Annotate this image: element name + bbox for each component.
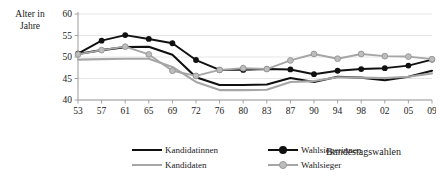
data-point-marker [382,53,388,59]
data-point-marker [122,44,128,50]
x-axis-tick-label: 69 [168,106,178,116]
y-axis-title-line-1: Alter in [4,8,56,20]
y-axis-tick-label: 60 [63,9,73,19]
legend-item-wahlsieger: Wahlsieger [268,157,361,172]
data-point-marker [311,71,317,77]
data-point-marker [406,63,412,69]
x-axis-tick-label: 53 [73,106,83,116]
data-point-marker [406,54,412,60]
chart-legend: Kandidatinnen Kandidaten Wahlsiegerinnen [132,142,328,172]
data-point-marker [429,56,435,62]
data-point-marker [288,58,294,64]
data-point-marker [240,65,246,71]
data-point-marker [193,73,199,79]
data-point-marker [146,52,152,58]
y-axis-tick-label: 50 [63,52,73,62]
data-point-marker [358,51,364,57]
data-point-marker [382,65,388,71]
x-axis-tick-label: 05 [404,106,414,116]
series-wahlsieger [75,44,435,79]
legend-item-wahlsiegerinnen: Wahlsiegerinnen [268,142,361,157]
data-point-marker [99,47,105,53]
data-point-marker [99,38,105,44]
data-point-marker [264,66,270,72]
legend-label: Kandidaten [165,160,206,170]
series-kandidatinnen [78,47,432,85]
x-axis-tick-label: 98 [356,106,366,116]
x-axis-tick-label: 83 [262,106,272,116]
data-point-marker [311,51,317,57]
y-axis-tick-label: 40 [63,95,73,105]
data-point-marker [122,32,128,38]
y-axis-title: Alter in Jahre [4,8,56,32]
x-axis-tick-label: 57 [97,106,107,116]
legend-label: Wahlsiegerinnen [301,145,361,155]
data-point-marker [193,57,199,63]
x-axis-tick-label: 90 [309,106,319,116]
data-point-marker [217,67,223,73]
legend-swatch-line-marker-icon [268,159,298,170]
legend-swatch-line-marker-icon [268,144,298,155]
legend-column-right: Wahlsiegerinnen Wahlsieger [268,142,361,172]
series-wahlsiegerinnen [75,32,435,77]
y-axis-tick-label: 45 [63,74,73,84]
x-axis-tick-label: 61 [120,106,130,116]
legend-label: Kandidatinnen [165,145,218,155]
x-axis-tick-label: 87 [286,106,296,116]
legend-label: Wahlsieger [301,160,341,170]
y-axis-tick-label: 55 [63,31,73,41]
line-chart-svg: 6055504540535761656972768083879094980205… [56,6,436,122]
x-axis-tick-label: 94 [333,106,343,116]
x-axis-tick-label: 02 [380,106,390,116]
plot-area: 6055504540535761656972768083879094980205… [56,6,436,122]
data-point-marker [170,40,176,46]
x-axis-tick-label: 09 [427,106,436,116]
data-point-marker [335,68,341,74]
x-axis-tick-label: 72 [191,106,201,116]
data-point-marker [288,67,294,73]
x-axis-tick-label: 65 [144,106,154,116]
legend-swatch-line-icon [132,144,162,155]
legend-item-kandidatinnen: Kandidatinnen [132,142,218,157]
legend-swatch-line-icon [132,159,162,170]
data-point-marker [146,36,152,42]
data-point-marker [75,52,81,58]
x-axis-tick-label: 76 [215,106,225,116]
chart-container: Alter in Jahre 6055504540535761656972768… [0,0,440,180]
legend-item-kandidaten: Kandidaten [132,157,218,172]
data-point-marker [358,66,364,72]
y-axis-title-line-2: Jahre [4,20,56,32]
legend-column-left: Kandidatinnen Kandidaten [132,142,218,172]
data-point-marker [335,56,341,62]
x-axis-tick-label: 80 [238,106,248,116]
data-point-marker [170,68,176,74]
